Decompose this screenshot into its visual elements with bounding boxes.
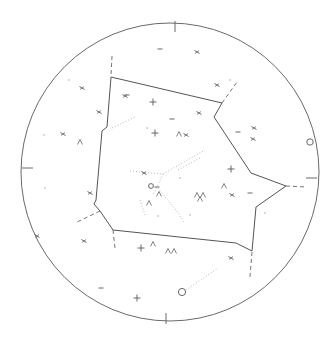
open-circle-icon xyxy=(149,184,154,189)
star-dot-icon xyxy=(44,187,46,189)
star-dot-icon xyxy=(264,212,266,214)
open-circle-icon xyxy=(307,139,313,145)
star-chart xyxy=(0,0,334,339)
star-dot-icon xyxy=(229,79,231,81)
star-dot-icon xyxy=(189,214,191,216)
open-circle-icon xyxy=(178,288,185,295)
star-dot-icon xyxy=(68,79,70,81)
star-dot-icon xyxy=(146,127,148,129)
star-dot-icon xyxy=(179,177,181,179)
star-dot-icon xyxy=(157,215,159,217)
star-dot-icon xyxy=(43,134,45,136)
chart-background xyxy=(0,0,334,339)
